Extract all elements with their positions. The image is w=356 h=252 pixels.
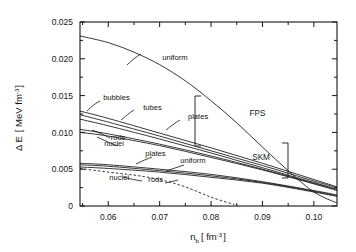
annotation-leader-lines bbox=[87, 54, 184, 183]
label-uniform-skm: uniform bbox=[180, 156, 205, 165]
svg-text:Δ E[ MeV fm-3]: Δ E[ MeV fm-3] bbox=[13, 85, 25, 151]
x-axis-unit-exponent: -3 bbox=[217, 231, 223, 238]
label-plates-fps: plates bbox=[188, 112, 208, 121]
label-rods-skm: rods bbox=[148, 175, 163, 184]
group-brackets bbox=[195, 96, 288, 178]
x-tick-label: 0.10 bbox=[306, 212, 323, 222]
y-axis-unit-exponent: -3 bbox=[13, 88, 20, 94]
nuclear-pasta-energy-chart: 0.060.070.080.090.10 00.0050.0100.0150.0… bbox=[0, 0, 356, 252]
leader-rods-skm bbox=[165, 180, 178, 183]
y-tick-label: 0.020 bbox=[52, 54, 74, 64]
y-tick-label: 0.010 bbox=[52, 128, 74, 138]
label-skm-group: SKM bbox=[252, 153, 270, 162]
label-bubbles: bubbles bbox=[103, 93, 130, 102]
x-axis-unit-open: [ fm bbox=[201, 231, 217, 242]
curve-nuclei-skm bbox=[80, 168, 234, 204]
leader-tubes bbox=[121, 110, 134, 120]
y-tick-label: 0 bbox=[68, 201, 73, 211]
x-tick-label: 0.07 bbox=[151, 212, 168, 222]
y-tick-label: 0.025 bbox=[52, 17, 74, 27]
label-nuclei-fps: nuclei bbox=[104, 139, 124, 148]
x-tick-labels: 0.060.070.080.090.10 bbox=[100, 212, 322, 222]
y-tick-label: 0.015 bbox=[52, 91, 74, 101]
label-tubes: tubes bbox=[143, 103, 162, 112]
y-axis-unit-close: ] bbox=[13, 85, 24, 88]
y-axis-delta-e: Δ E bbox=[13, 136, 24, 151]
svg-text:nb[ fm-3]: nb[ fm-3] bbox=[190, 231, 226, 244]
y-axis-title: Δ E[ MeV fm-3] bbox=[13, 85, 25, 151]
x-axis-subscript-b: b bbox=[195, 237, 199, 244]
x-axis-title: nb[ fm-3] bbox=[190, 231, 226, 244]
x-axis-unit-close: ] bbox=[223, 231, 226, 242]
y-axis-unit-open: [ MeV fm bbox=[13, 94, 24, 132]
x-tick-label: 0.06 bbox=[100, 212, 117, 222]
leader-bubbles bbox=[87, 101, 100, 111]
leader-uniform-skm bbox=[166, 165, 184, 171]
x-tick-label: 0.09 bbox=[254, 212, 271, 222]
label-nuclei-skm: nuclei bbox=[109, 173, 129, 182]
label-plates-skm: plates bbox=[145, 149, 165, 158]
leader-plates-fps bbox=[166, 120, 180, 130]
y-tick-label: 0.005 bbox=[52, 164, 74, 174]
leader-plates-skm bbox=[136, 157, 152, 164]
leader-uniform-top bbox=[127, 54, 141, 65]
label-fps-group: FPS bbox=[250, 109, 266, 118]
label-uniform-top: uniform bbox=[162, 53, 187, 62]
y-tick-labels: 00.0050.0100.0150.0200.025 bbox=[52, 17, 74, 211]
x-tick-label: 0.08 bbox=[203, 212, 220, 222]
